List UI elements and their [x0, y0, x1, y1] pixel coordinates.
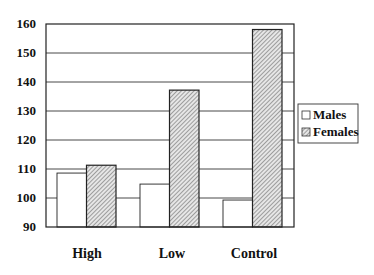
- x-category-label: High: [72, 246, 102, 261]
- y-tick-label: 130: [17, 103, 37, 118]
- y-tick-label: 140: [17, 74, 37, 89]
- y-tick-label: 90: [23, 219, 36, 234]
- y-tick-label: 110: [17, 161, 36, 176]
- y-tick-label: 100: [17, 190, 37, 205]
- x-category-label: Low: [159, 246, 186, 261]
- y-tick-label: 120: [17, 132, 37, 147]
- legend: MalesFemales: [298, 104, 358, 143]
- x-category-label: Control: [231, 246, 278, 261]
- bar-chart: 90100110120130140150160 HighLowControl M…: [0, 0, 374, 275]
- bar-males-high: [57, 173, 87, 227]
- bar-males-low: [140, 184, 170, 227]
- bar-females-control: [253, 30, 283, 227]
- x-axis-labels: HighLowControl: [72, 246, 277, 261]
- legend-label-females: Females: [313, 124, 358, 139]
- y-tick-label: 160: [17, 16, 37, 31]
- y-axis-ticks: 90100110120130140150160: [17, 16, 37, 234]
- y-tick-label: 150: [17, 45, 37, 60]
- legend-swatch-males: [302, 111, 310, 119]
- bar-females-low: [170, 90, 200, 227]
- legend-label-males: Males: [313, 107, 346, 122]
- legend-swatch-females: [302, 128, 310, 136]
- bar-males-control: [223, 200, 253, 227]
- bars: [57, 30, 282, 227]
- bar-females-high: [87, 165, 117, 227]
